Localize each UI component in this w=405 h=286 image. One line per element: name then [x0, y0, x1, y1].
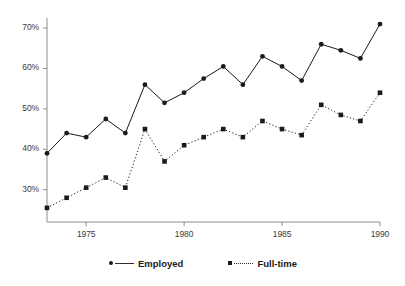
- legend-label-employed: Employed: [138, 258, 183, 269]
- y-tick-label: 30%: [13, 184, 39, 194]
- chart-legend: Employed Full-time: [0, 252, 405, 274]
- chart-container: 30%40%50%60%70% 1975198019851990 Employe…: [0, 0, 405, 286]
- x-tick-label: 1975: [69, 229, 103, 239]
- legend-swatch-solid-circle-icon: [108, 259, 134, 268]
- legend-item-full-time[interactable]: Full-time: [227, 258, 297, 269]
- x-tick-label: 1985: [265, 229, 299, 239]
- y-tick-label: 70%: [13, 22, 39, 32]
- line-chart-plot: [0, 0, 405, 286]
- x-tick-label: 1980: [167, 229, 201, 239]
- legend-item-employed[interactable]: Employed: [108, 258, 183, 269]
- y-tick-label: 40%: [13, 143, 39, 153]
- y-tick-label: 60%: [13, 62, 39, 72]
- x-tick-label: 1990: [363, 229, 397, 239]
- legend-swatch-dotted-square-icon: [227, 259, 253, 268]
- legend-label-full-time: Full-time: [257, 258, 297, 269]
- y-tick-label: 50%: [13, 103, 39, 113]
